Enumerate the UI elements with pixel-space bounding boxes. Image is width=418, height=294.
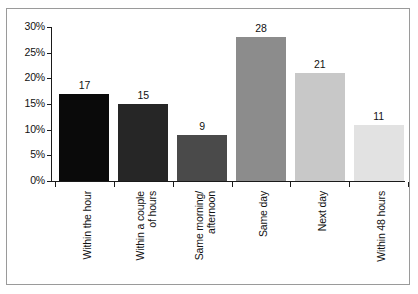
x-axis-tick-mark	[290, 182, 291, 187]
x-axis-category-label: Same morning/ afternoon	[194, 191, 217, 287]
y-axis-tick-label: 25%	[25, 46, 45, 58]
y-axis-tick: 5%	[7, 155, 51, 156]
y-axis-tick: 0%	[7, 181, 51, 182]
x-axis-tick-mark	[55, 182, 56, 187]
x-axis-category-label: Same day	[258, 191, 270, 287]
bar[interactable]: 11	[354, 125, 404, 181]
chart-frame: 0%5%10%15%20%25%30% 17159282111 Within t…	[6, 8, 410, 285]
y-axis-tick-label: 30%	[25, 20, 45, 32]
x-axis-category-label: Within the hour	[82, 191, 94, 287]
bar[interactable]: 28	[236, 37, 286, 181]
x-axis-tick-mark	[349, 182, 350, 187]
y-axis-tick-label: 10%	[25, 123, 45, 135]
bar-value-label: 9	[177, 120, 227, 132]
bar-value-label: 21	[295, 58, 345, 70]
y-axis-tick: 25%	[7, 53, 51, 54]
x-axis-category-label: Next day	[317, 191, 329, 287]
x-axis-line	[51, 181, 405, 182]
x-axis-tick-mark	[408, 182, 409, 187]
x-axis-tick-mark	[173, 182, 174, 187]
bar[interactable]: 15	[118, 104, 168, 181]
bar-value-label: 15	[118, 89, 168, 101]
x-axis-category-label: Within a couple of hours	[135, 191, 158, 287]
y-axis-tick-label: 0%	[30, 174, 45, 186]
y-axis-tick: 15%	[7, 104, 51, 105]
bar[interactable]: 21	[295, 73, 345, 181]
x-axis-category-label: Within 48 hours	[376, 191, 388, 287]
y-axis-tick-label: 15%	[25, 97, 45, 109]
y-axis-tick: 20%	[7, 78, 51, 79]
bar-value-label: 17	[59, 79, 109, 91]
y-axis-tick: 30%	[7, 27, 51, 28]
bar-value-label: 11	[354, 110, 404, 122]
plot-area: 17159282111	[51, 27, 404, 181]
x-axis-tick-mark	[114, 182, 115, 187]
x-axis-tick-mark	[232, 182, 233, 187]
bar[interactable]: 17	[59, 94, 109, 181]
y-axis-tick: 10%	[7, 130, 51, 131]
y-axis-tick-label: 5%	[30, 148, 45, 160]
bar-value-label: 28	[236, 22, 286, 34]
y-axis-tick-label: 20%	[25, 71, 45, 83]
bar[interactable]: 9	[177, 135, 227, 181]
